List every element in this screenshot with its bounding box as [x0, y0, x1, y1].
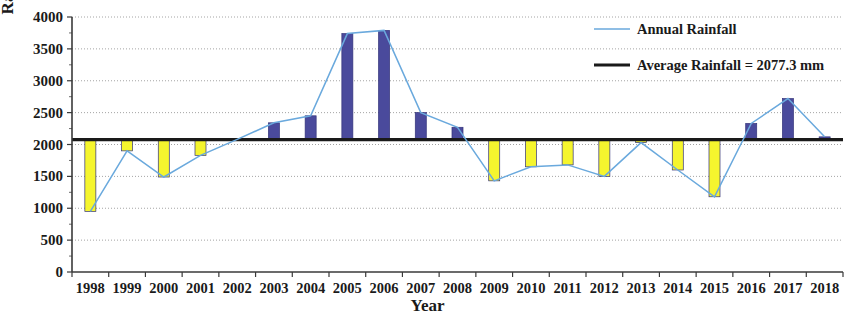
bar	[599, 140, 610, 177]
x-tick-label: 2001	[186, 280, 215, 296]
x-tick-label: 2016	[737, 280, 766, 296]
y-axis-ticks: 05001000150020002500300035004000	[33, 9, 72, 280]
y-tick-label: 3000	[33, 73, 63, 89]
chart-legend: Annual RainfallAverage Rainfall = 2077.3…	[594, 21, 824, 73]
x-tick-label: 2018	[810, 280, 839, 296]
x-tick-label: 2005	[333, 280, 362, 296]
x-tick-label: 1998	[76, 280, 105, 296]
axis-lines	[72, 17, 843, 272]
chart-figure: Rainfall (mm) Year 050010001500200025003…	[0, 0, 855, 334]
x-tick-label: 2003	[259, 280, 288, 296]
y-tick-label: 1000	[33, 200, 63, 216]
chart-canvas: 05001000150020002500300035004000 1998199…	[0, 0, 855, 334]
bar	[562, 140, 573, 165]
bar	[85, 140, 96, 212]
y-tick-label: 0	[56, 264, 64, 280]
bar	[672, 140, 683, 170]
y-tick-label: 3500	[33, 41, 63, 57]
x-tick-label: 2006	[370, 280, 399, 296]
legend-label: Average Rainfall = 2077.3 mm	[637, 57, 824, 73]
x-tick-label: 2008	[443, 280, 472, 296]
bar	[525, 140, 536, 167]
bar	[782, 99, 793, 140]
x-tick-label: 2013	[627, 280, 656, 296]
x-tick-label: 2007	[406, 280, 435, 296]
bar	[305, 116, 316, 140]
x-tick-label: 2015	[700, 280, 729, 296]
x-axis-ticks: 1998199920002001200220032004200520062007…	[72, 272, 843, 296]
x-tick-label: 2000	[149, 280, 178, 296]
x-tick-label: 2010	[516, 280, 545, 296]
x-tick-label: 2009	[480, 280, 509, 296]
bar	[122, 140, 133, 151]
y-tick-label: 500	[41, 232, 64, 248]
y-tick-label: 2500	[33, 105, 63, 121]
x-tick-label: 1999	[113, 280, 142, 296]
x-tick-label: 2002	[223, 280, 252, 296]
legend-label: Annual Rainfall	[637, 21, 737, 37]
y-tick-label: 1500	[33, 168, 63, 184]
bar	[379, 30, 390, 139]
y-tick-label: 4000	[33, 9, 63, 25]
x-tick-label: 2014	[663, 280, 692, 296]
x-tick-label: 2004	[296, 280, 325, 296]
x-tick-label: 2012	[590, 280, 619, 296]
bar	[415, 113, 426, 140]
x-tick-label: 2017	[773, 280, 802, 296]
x-tick-label: 2011	[554, 280, 582, 296]
y-tick-label: 2000	[33, 137, 63, 153]
bar	[158, 140, 169, 177]
bar	[342, 34, 353, 140]
